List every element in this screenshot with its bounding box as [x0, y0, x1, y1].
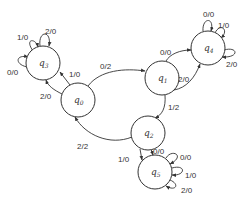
label-q3-loop-1: 1/0	[17, 33, 29, 42]
label-q1-q4-a: 0/0	[160, 48, 172, 57]
label-q2-q0: 2/2	[77, 142, 89, 151]
edge-q2-q5-a	[140, 149, 142, 160]
edge-q0-q1	[88, 70, 145, 86]
label-q3-loop-0: 0/0	[7, 68, 19, 77]
label-q4-loop-2: 2/0	[226, 60, 238, 69]
label-q0-q1: 0/2	[100, 62, 112, 71]
label-q5-loop-0: 0/0	[180, 153, 192, 162]
label-q5-loop-2: 2/0	[181, 186, 193, 195]
edge-q1-q2	[155, 95, 165, 118]
state-q4: q4	[191, 31, 225, 65]
label-q3-loop-2: 2/0	[45, 27, 57, 36]
label-q0-q3-a: 1/0	[69, 70, 81, 79]
label-q1-q2: 1/2	[168, 103, 180, 112]
label-q0-q3-b: 2/0	[40, 92, 52, 101]
state-diagram: q3 q0 q1 q4 q2 q5 1/0 2/0 0/0 1/0 2/0 0/…	[0, 0, 243, 205]
state-q3: q3	[26, 46, 60, 80]
state-q5: q5	[138, 155, 172, 189]
label-q4-loop-1: 1/0	[218, 21, 230, 30]
label-q5-loop-1: 1/0	[185, 171, 197, 180]
edge-q2-q0	[75, 117, 132, 140]
edge-q5-loop-1	[172, 167, 183, 175]
label-q4-loop-0: 0/0	[203, 10, 215, 19]
label-q2-q5-b: 0/0	[153, 147, 165, 156]
label-q2-q5-a: 1/0	[118, 155, 130, 164]
state-q0: q0	[61, 83, 95, 117]
state-q1: q1	[145, 61, 179, 95]
state-q2: q2	[131, 116, 165, 150]
label-q1-q4-b: 2/0	[178, 75, 190, 84]
edge-q4-loop-0	[203, 21, 212, 32]
